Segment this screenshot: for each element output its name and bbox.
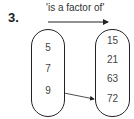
domain-set: 5 7 9 [31,29,65,117]
domain-item: 9 [32,85,64,96]
mapping-arrow-9-to-72 [64,93,94,99]
codomain-set: 15 21 63 72 [95,29,130,117]
codomain-item: 15 [96,35,129,46]
codomain-item: 72 [96,93,129,104]
codomain-item: 21 [96,54,129,65]
codomain-item: 63 [96,73,129,84]
domain-item: 7 [32,63,64,74]
domain-item: 5 [32,42,64,53]
